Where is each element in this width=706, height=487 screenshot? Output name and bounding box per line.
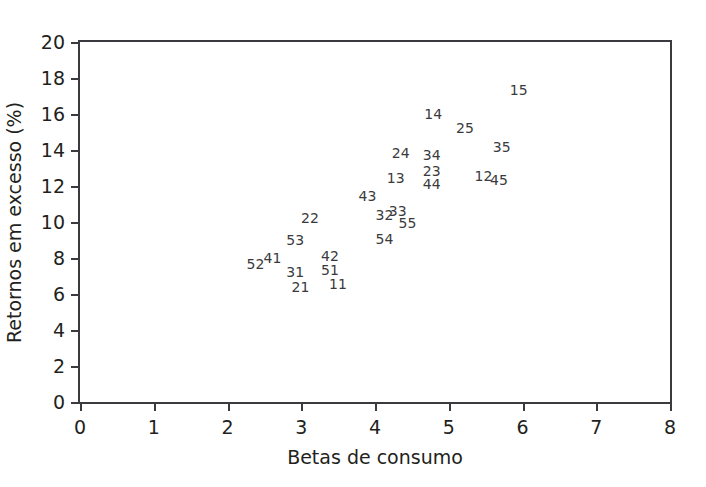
data-point-label: 44 — [423, 177, 441, 191]
x-axis-tick — [449, 402, 451, 411]
y-axis-tick — [71, 222, 80, 224]
data-point-label: 35 — [493, 140, 511, 154]
data-point-label: 11 — [329, 277, 347, 291]
y-axis-tick-label: 10 — [41, 213, 65, 232]
data-point-label: 15 — [510, 83, 528, 97]
y-axis-tick-label: 8 — [53, 249, 65, 268]
x-axis-tick-label: 4 — [369, 418, 381, 437]
y-axis-tick — [71, 78, 80, 80]
y-axis-tick — [71, 258, 80, 260]
y-axis-tick-label: 18 — [41, 69, 65, 88]
y-axis-tick — [71, 330, 80, 332]
y-axis-tick — [71, 186, 80, 188]
data-point-label: 31 — [286, 265, 304, 279]
data-point-label: 13 — [387, 171, 405, 185]
x-axis-tick-label: 1 — [148, 418, 160, 437]
x-axis-tick — [596, 402, 598, 411]
y-axis-tick-label: 12 — [41, 177, 65, 196]
data-point-label: 45 — [490, 173, 508, 187]
y-axis-tick — [71, 402, 80, 404]
y-axis-tick-label: 2 — [53, 357, 65, 376]
y-axis-title: Retornos em excesso (%) — [0, 40, 30, 404]
y-axis-tick — [71, 114, 80, 116]
y-axis-title-text: Retornos em excesso (%) — [6, 101, 25, 342]
y-axis-tick — [71, 366, 80, 368]
x-axis-tick-label: 2 — [221, 418, 233, 437]
plot-area: 0246810121416182001234567852415331212242… — [78, 40, 672, 404]
data-point-label: 34 — [423, 148, 441, 162]
data-point-label: 52 — [247, 257, 265, 271]
data-point-label: 55 — [398, 216, 416, 230]
x-axis-tick — [80, 402, 82, 411]
data-point-label: 14 — [424, 107, 442, 121]
y-axis-tick — [71, 294, 80, 296]
data-point-label: 21 — [291, 280, 309, 294]
x-axis-tick-label: 8 — [664, 418, 676, 437]
x-axis-title: Betas de consumo — [78, 448, 672, 467]
data-point-label: 22 — [301, 211, 319, 225]
data-point-label: 51 — [321, 263, 339, 277]
y-axis-tick-label: 14 — [41, 141, 65, 160]
x-axis-tick — [301, 402, 303, 411]
data-point-label: 43 — [359, 189, 377, 203]
x-axis-tick-label: 3 — [295, 418, 307, 437]
x-axis-tick — [375, 402, 377, 411]
data-point-label: 24 — [392, 146, 410, 160]
y-axis-tick — [71, 42, 80, 44]
y-axis-tick-label: 16 — [41, 105, 65, 124]
data-point-label: 25 — [456, 121, 474, 135]
x-axis-tick-label: 6 — [516, 418, 528, 437]
x-axis-tick — [523, 402, 525, 411]
data-point-label: 41 — [263, 251, 281, 265]
y-axis-tick — [71, 150, 80, 152]
y-axis-tick-label: 6 — [53, 285, 65, 304]
x-axis-tick-label: 7 — [590, 418, 602, 437]
x-axis-tick — [154, 402, 156, 411]
y-axis-tick-label: 4 — [53, 321, 65, 340]
x-axis-tick-label: 5 — [443, 418, 455, 437]
x-axis-tick-label: 0 — [74, 418, 86, 437]
x-axis-tick — [670, 402, 672, 411]
data-point-label: 53 — [286, 233, 304, 247]
data-point-label: 54 — [376, 232, 394, 246]
scatter-chart-figure: Retornos em excesso (%) 0246810121416182… — [0, 0, 706, 487]
y-axis-tick-label: 20 — [41, 33, 65, 52]
y-axis-tick-label: 0 — [53, 393, 65, 412]
x-axis-tick — [228, 402, 230, 411]
